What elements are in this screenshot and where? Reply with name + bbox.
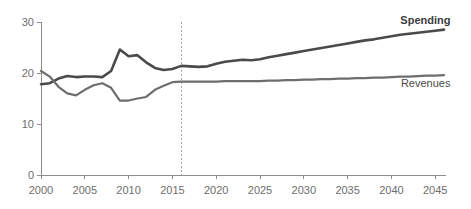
spending-line [41, 30, 444, 85]
x-tick-label: 2010 [116, 184, 140, 196]
y-tick-label: 10 [22, 118, 34, 130]
y-tick-label: 0 [28, 169, 34, 181]
x-axis-ticks: 2000200520102015202020252030203520402045 [29, 175, 448, 196]
x-tick-label: 2045 [423, 184, 447, 196]
x-tick-label: 2025 [248, 184, 272, 196]
x-tick-label: 2020 [204, 184, 228, 196]
revenues-series-label: Revenues [401, 77, 451, 89]
y-tick-label: 20 [22, 67, 34, 79]
chart-container: 0102030 20002005201020152020202520302035… [0, 0, 471, 209]
x-tick-label: 2000 [29, 184, 53, 196]
y-axis-ticks: 0102030 [22, 16, 41, 181]
x-tick-label: 2005 [73, 184, 97, 196]
revenues-line [41, 71, 444, 101]
x-tick-label: 2040 [379, 184, 403, 196]
y-tick-label: 30 [22, 16, 34, 28]
x-tick-label: 2035 [335, 184, 359, 196]
x-tick-label: 2030 [292, 184, 316, 196]
x-tick-label: 2015 [160, 184, 184, 196]
line-chart: 0102030 20002005201020152020202520302035… [0, 0, 471, 209]
spending-series-label: Spending [400, 14, 450, 26]
